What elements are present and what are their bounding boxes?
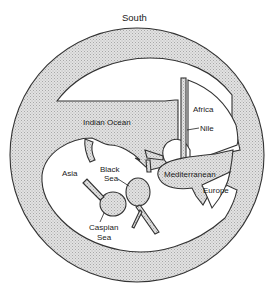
world-map-diagram: South Indian Ocean Africa Nile Asia Blac… — [0, 0, 273, 294]
label-south: South — [122, 12, 147, 23]
label-mediterranean: Mediterranean — [164, 170, 216, 179]
black-sea — [126, 178, 150, 206]
label-black-sea-2: Sea — [104, 174, 119, 183]
caspian-sea — [100, 192, 126, 216]
label-indian-ocean: Indian Ocean — [83, 118, 131, 127]
label-europe: Europe — [203, 186, 229, 195]
label-asia: Asia — [62, 169, 78, 178]
label-caspian-sea-2: Sea — [97, 233, 112, 242]
gulf-2 — [146, 160, 151, 172]
label-africa: Africa — [193, 105, 214, 114]
label-nile: Nile — [200, 124, 214, 133]
label-black-sea-1: Black — [100, 165, 121, 174]
label-caspian-sea-1: Caspian — [89, 223, 118, 232]
